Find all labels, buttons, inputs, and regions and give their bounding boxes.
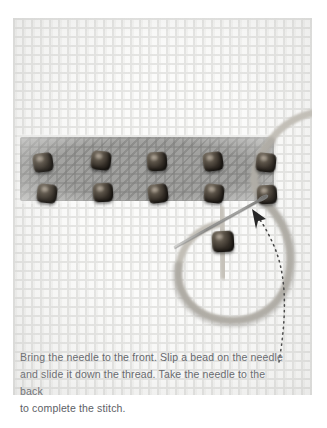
bead <box>203 183 225 204</box>
thread-loop <box>13 18 312 395</box>
bead <box>32 152 54 173</box>
aida-fabric-background <box>13 18 312 395</box>
bead <box>147 151 168 171</box>
caption-line-1: Bring the needle to the front. Slip a be… <box>20 349 288 366</box>
bead <box>202 151 224 172</box>
sewing-needle <box>13 18 312 395</box>
bead <box>257 184 278 204</box>
caption-line-3: to complete the stitch. <box>20 400 288 417</box>
caption-text: Bring the needle to the front. Slip a be… <box>20 349 288 417</box>
bead <box>255 152 277 173</box>
bead <box>36 183 58 204</box>
bead <box>93 182 114 202</box>
caption-line-2: and slide it down the thread. Take the n… <box>20 366 288 400</box>
bead <box>147 183 169 204</box>
bead-on-needle <box>211 230 234 252</box>
tutorial-photo-page: Bring the needle to the front. Slip a be… <box>0 0 327 428</box>
bead <box>90 150 112 171</box>
